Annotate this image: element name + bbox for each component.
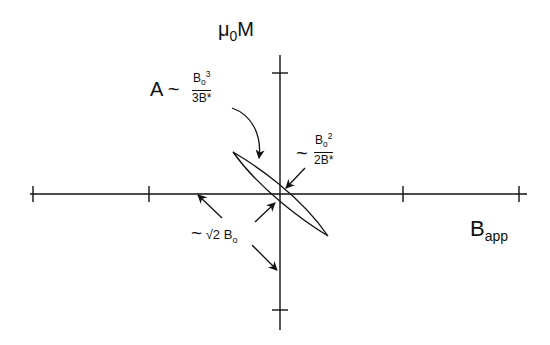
area-num-base: B — [193, 71, 201, 85]
annotation-arrows — [198, 108, 305, 270]
width-label: ~ √2 Bo — [191, 222, 237, 245]
area-num-sup: 3 — [206, 69, 211, 79]
remanence-num-sup: 2 — [328, 131, 333, 141]
area-arrow — [232, 108, 260, 158]
area-denominator: 3B* — [192, 91, 211, 105]
y-axis-label: μ0M — [218, 18, 254, 44]
x-label-sub: app — [485, 228, 508, 244]
remanence-arrow — [286, 168, 305, 188]
y-axis — [272, 55, 288, 330]
y-label-mu: μ — [218, 18, 230, 40]
remanence-denominator: 2B* — [314, 153, 333, 167]
hysteresis-diagram — [0, 0, 550, 345]
area-numerator: Bo3 — [192, 68, 211, 91]
width-arrow-down — [252, 245, 277, 270]
width-root: √2 — [206, 227, 220, 242]
area-fraction: Bo3 3B* — [192, 68, 211, 105]
width-arrow-right — [255, 203, 275, 222]
remanence-fraction: Bo2 2B* — [314, 130, 333, 167]
remanence-num-base: B — [315, 133, 323, 147]
width-prefix: ~ — [191, 222, 202, 243]
width-sub: o — [232, 235, 237, 245]
y-label-m: M — [237, 18, 254, 40]
remanence-prefix: ~ — [296, 142, 308, 165]
x-label-b: B — [470, 216, 485, 241]
width-arrow-left — [198, 195, 222, 218]
x-axis-label: Bapp — [470, 216, 508, 244]
remanence-numerator: Bo2 — [314, 130, 333, 153]
area-prefix: A ~ — [150, 78, 179, 101]
